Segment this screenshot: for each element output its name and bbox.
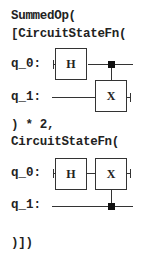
gate-h: H xyxy=(55,158,87,190)
gate-h: H xyxy=(55,48,87,80)
circuitstatefn-1-open: [CircuitStateFn( xyxy=(11,27,126,41)
qubit-label-q0: q_0: xyxy=(11,57,41,71)
circuitstatefn-2-open: CircuitStateFn( xyxy=(11,135,119,149)
control-dot-icon xyxy=(108,203,115,210)
qubit-label-q1: q_1: xyxy=(11,198,41,212)
multiplier-close: ) * 2, xyxy=(11,118,54,132)
control-dot-icon xyxy=(108,61,115,68)
wire-end-tick xyxy=(130,93,131,102)
qubit-wire-q1 xyxy=(52,206,133,207)
gate-x: X xyxy=(95,158,127,190)
wire-end-tick xyxy=(130,169,131,178)
list-close: )]) xyxy=(11,236,33,250)
gate-x: X xyxy=(95,80,127,112)
qubit-label-q0: q_0: xyxy=(11,166,41,180)
qubit-wire-q1 xyxy=(52,97,96,98)
summedop-open: SummedOp( xyxy=(11,9,76,23)
qubit-label-q1: q_1: xyxy=(11,90,41,104)
